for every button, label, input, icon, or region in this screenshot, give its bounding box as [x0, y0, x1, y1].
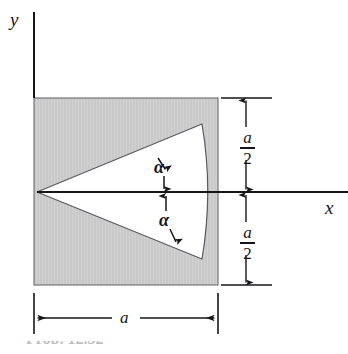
lower-alpha-label: α [159, 211, 169, 229]
dimension-half-a-lower: a 2 [240, 224, 255, 262]
diagram-canvas [0, 0, 348, 354]
y-axis-label: y [10, 10, 18, 29]
figure-container: y x α α a 2 a 2 a Prob. 12.32 [0, 0, 348, 354]
dimension-half-a-upper: a 2 [240, 129, 255, 167]
dimension-width-a: a [120, 309, 129, 326]
fraction-numerator: a [243, 224, 252, 242]
figure-caption-clipped: Prob. 12.32 [26, 341, 226, 354]
fraction-numerator: a [243, 129, 252, 147]
fraction-denominator: 2 [243, 149, 252, 167]
figure-caption-text: Prob. 12.32 [26, 341, 103, 348]
upper-alpha-label: α [154, 158, 164, 176]
fraction-denominator: 2 [243, 244, 252, 262]
x-axis-label: x [325, 198, 333, 217]
